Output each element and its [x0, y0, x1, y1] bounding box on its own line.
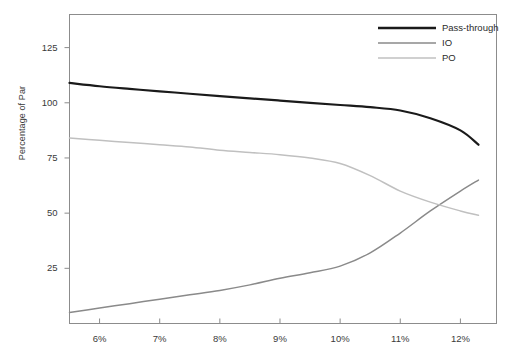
x-tick-label: 9% [260, 333, 300, 344]
legend-label-pass-through: Pass-through [442, 22, 499, 33]
legend-label-po: PO [442, 52, 456, 63]
y-tick-label: 50 [24, 207, 58, 218]
x-tick-label: 6% [80, 333, 120, 344]
y-tick-label: 125 [24, 42, 58, 53]
x-tick-label: 8% [200, 333, 240, 344]
line-chart-plot [0, 0, 518, 358]
y-tick-label: 25 [24, 262, 58, 273]
y-tick-label: 75 [24, 152, 58, 163]
y-axis-title: Percentage of Par [17, 63, 27, 183]
y-tick-label: 100 [24, 97, 58, 108]
x-tick-label: 12% [440, 333, 480, 344]
chart-container: Percentage of Par 255075100125 6%7%8%9%1… [0, 0, 518, 358]
x-tick-label: 7% [140, 333, 180, 344]
x-tick-label: 11% [380, 333, 420, 344]
x-tick-label: 10% [320, 333, 360, 344]
legend-label-io: IO [442, 37, 452, 48]
y-axis-ticks [65, 48, 70, 269]
